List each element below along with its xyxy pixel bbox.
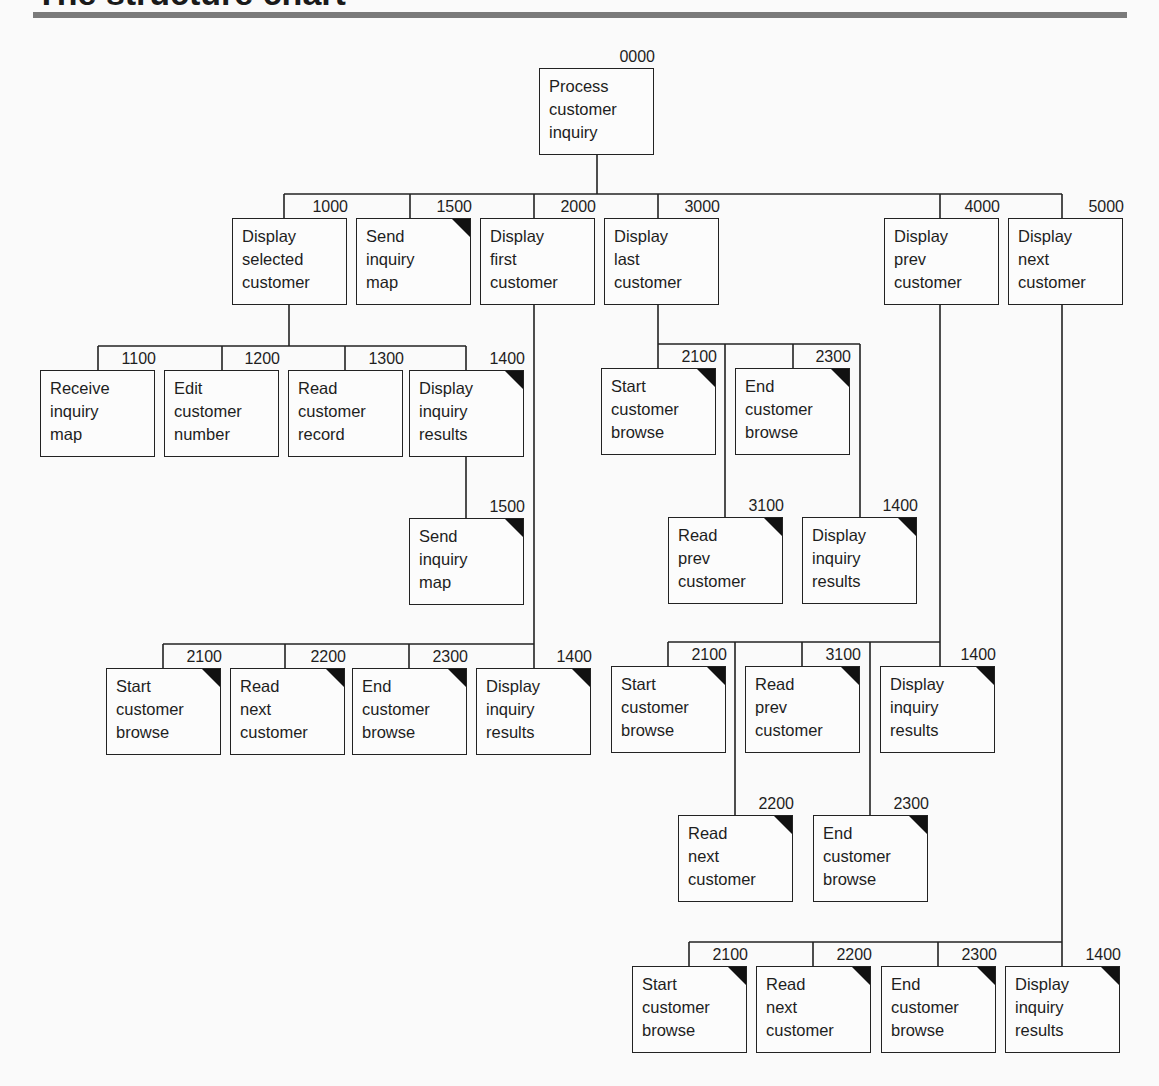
module-box-4000: Displayprevcustomer	[884, 218, 999, 305]
common-module-corner-icon	[505, 371, 523, 389]
module-label-line: Start	[116, 675, 184, 698]
module-label-line: End	[362, 675, 430, 698]
module-label-line: customer	[1018, 271, 1086, 294]
module-number: 1400	[532, 648, 592, 666]
module-number: 2100	[688, 946, 748, 964]
module-label-line: next	[240, 698, 308, 721]
module-label: Processcustomerinquiry	[549, 75, 617, 144]
module-label-line: next	[766, 996, 834, 1019]
module-box-0000: Processcustomerinquiry	[539, 68, 654, 155]
module-label-line: inquiry	[486, 698, 540, 721]
module-number: 2100	[162, 648, 222, 666]
module-label-line: next	[1018, 248, 1086, 271]
module-label: Endcustomerbrowse	[891, 973, 959, 1042]
module-label: Displayprevcustomer	[894, 225, 962, 294]
module-label-line: map	[366, 271, 415, 294]
module-label-line: inquiry	[812, 547, 866, 570]
module-box-2100: Startcustomerbrowse	[106, 668, 221, 755]
module-label: Displayinquiryresults	[1015, 973, 1069, 1042]
module-label: Readprevcustomer	[678, 524, 746, 593]
module-label: Endcustomerbrowse	[362, 675, 430, 744]
module-number: 2200	[286, 648, 346, 666]
module-label-line: results	[812, 570, 866, 593]
module-label-line: next	[688, 845, 756, 868]
module-box-1400: Displayinquiryresults	[476, 668, 591, 755]
module-label-line: browse	[611, 421, 679, 444]
module-label-line: Display	[486, 675, 540, 698]
module-box-3100: Readprevcustomer	[668, 517, 783, 604]
module-number: 0000	[595, 48, 655, 66]
module-label-line: Display	[1018, 225, 1086, 248]
module-label-line: customer	[611, 398, 679, 421]
module-label: Editcustomernumber	[174, 377, 242, 446]
module-label-line: End	[891, 973, 959, 996]
module-label-line: customer	[298, 400, 366, 423]
module-label-line: Display	[894, 225, 962, 248]
module-label-line: customer	[891, 996, 959, 1019]
module-label: Displayinquiryresults	[419, 377, 473, 446]
module-label-line: Display	[890, 673, 944, 696]
module-box-1400: Displayinquiryresults	[880, 666, 995, 753]
module-label-line: results	[419, 423, 473, 446]
module-label-line: Start	[642, 973, 710, 996]
module-label-line: results	[1015, 1019, 1069, 1042]
module-box-3100: Readprevcustomer	[745, 666, 860, 753]
module-label-line: map	[50, 423, 110, 446]
module-label: Readnextcustomer	[688, 822, 756, 891]
module-label: Displayinquiryresults	[486, 675, 540, 744]
module-label-line: customer	[242, 271, 310, 294]
module-box-2300: Endcustomerbrowse	[352, 668, 467, 755]
module-box-2300: Endcustomerbrowse	[813, 815, 928, 902]
common-module-corner-icon	[707, 667, 725, 685]
common-module-corner-icon	[1101, 967, 1119, 985]
module-number: 4000	[940, 198, 1000, 216]
module-label-line: browse	[362, 721, 430, 744]
module-label-line: Send	[366, 225, 415, 248]
module-label-line: customer	[642, 996, 710, 1019]
module-label: Displaynextcustomer	[1018, 225, 1086, 294]
module-box-2300: Endcustomerbrowse	[735, 368, 850, 455]
module-label: Startcustomerbrowse	[611, 375, 679, 444]
module-label-line: record	[298, 423, 366, 446]
module-number: 2000	[536, 198, 596, 216]
connector-lines	[0, 0, 1159, 1086]
common-module-corner-icon	[774, 816, 792, 834]
module-number: 1200	[220, 350, 280, 368]
common-module-corner-icon	[976, 667, 994, 685]
module-label: Startcustomerbrowse	[116, 675, 184, 744]
module-label-line: prev	[755, 696, 823, 719]
module-label-line: customer	[894, 271, 962, 294]
module-number: 1100	[96, 350, 156, 368]
module-label: Displayinquiryresults	[890, 673, 944, 742]
module-box-2200: Readnextcustomer	[230, 668, 345, 755]
module-label-line: inquiry	[419, 400, 473, 423]
module-label-line: End	[745, 375, 813, 398]
module-number: 1300	[344, 350, 404, 368]
module-box-2300: Endcustomerbrowse	[881, 966, 996, 1053]
module-label: Displayselectedcustomer	[242, 225, 310, 294]
module-label: Sendinquirymap	[366, 225, 415, 294]
module-number: 2100	[657, 348, 717, 366]
module-label-line: browse	[823, 868, 891, 891]
module-label-line: Display	[614, 225, 682, 248]
common-module-corner-icon	[202, 669, 220, 687]
module-label-line: browse	[116, 721, 184, 744]
module-number: 1400	[858, 497, 918, 515]
module-label: Startcustomerbrowse	[621, 673, 689, 742]
module-label-line: Receive	[50, 377, 110, 400]
module-label-line: number	[174, 423, 242, 446]
module-label-line: prev	[894, 248, 962, 271]
module-label-line: Start	[611, 375, 679, 398]
module-label-line: map	[419, 571, 468, 594]
module-label-line: Read	[298, 377, 366, 400]
module-label-line: inquiry	[549, 121, 617, 144]
module-label-line: Read	[766, 973, 834, 996]
module-label: Sendinquirymap	[419, 525, 468, 594]
module-label: Readnextcustomer	[240, 675, 308, 744]
module-label-line: Display	[419, 377, 473, 400]
module-number: 1000	[288, 198, 348, 216]
module-label-line: customer	[362, 698, 430, 721]
common-module-corner-icon	[697, 369, 715, 387]
module-label: Receiveinquirymap	[50, 377, 110, 446]
common-module-corner-icon	[764, 518, 782, 536]
